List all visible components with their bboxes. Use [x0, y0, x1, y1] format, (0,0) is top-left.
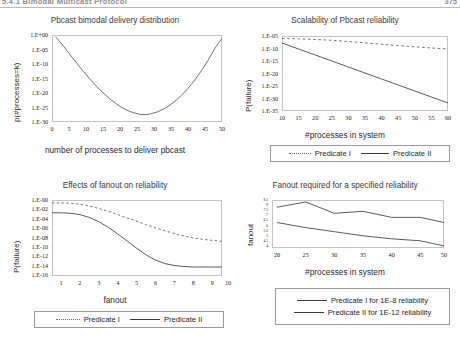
legend-label: Predicate I for 1E-8 reliability	[331, 296, 428, 305]
plot-area	[282, 36, 448, 111]
x-tick: 45	[395, 114, 401, 121]
y-tick: 1.E-25	[16, 105, 48, 111]
y-tick: 6	[254, 224, 268, 228]
x-tick: 60	[445, 114, 451, 121]
plot-area	[272, 200, 444, 248]
x-tick: 7	[173, 279, 176, 286]
y-tick: 7	[254, 213, 268, 217]
legend: Predicate I Predicate II	[34, 311, 224, 328]
x-tick: 2	[78, 279, 81, 286]
x-tick: 55	[428, 114, 434, 121]
y-tick: 6.5	[254, 218, 268, 222]
x-tick: 35	[168, 125, 174, 132]
y-tick: 4.5	[254, 239, 268, 243]
y-tick: 1.E-06	[16, 225, 48, 231]
x-tick: 5	[135, 279, 138, 286]
x-tick: 35	[360, 251, 366, 258]
legend-label: Predicate II	[164, 315, 202, 324]
y-tick: 5.5	[254, 229, 268, 233]
y-tick: 1.E-10	[16, 244, 48, 250]
legend-entry-predicate-ii: Predicate II	[361, 149, 431, 158]
y-tick: 1.E-20	[248, 71, 278, 77]
dotted-line-swatch-icon	[289, 153, 311, 154]
figure-pbcast-bimodal-delivery-distribution: Pbcast bimodal delivery distribution p(#…	[0, 12, 230, 175]
x-tick: 50	[219, 125, 225, 132]
x-tick: 6	[154, 279, 157, 286]
legend-entry-predicate-ii-1e12: Predicate II for 1E-12 reliability	[294, 308, 431, 317]
x-tick: 9	[211, 279, 214, 286]
legend: Predicate I for 1E-8 reliability Predica…	[275, 288, 450, 325]
x-tick: 3	[97, 279, 100, 286]
plot-curve-bimodal	[52, 35, 222, 122]
solid-line-swatch-icon	[297, 300, 327, 301]
figure-effects-of-fanout-on-reliability: Effects of fanout on reliability P(failu…	[0, 178, 230, 347]
y-tick: 5	[254, 234, 268, 238]
figure-title: Effects of fanout on reliability	[0, 181, 230, 190]
legend-label: Predicate I	[315, 149, 351, 158]
solid-line-swatch-icon	[130, 319, 160, 320]
legend: Predicate I Predicate II	[270, 145, 450, 162]
x-tick: 15	[100, 125, 106, 132]
y-tick: 1.E-25	[248, 83, 278, 89]
y-tick: 1.E-10	[248, 46, 278, 52]
y-tick: 1.E-14	[16, 263, 48, 269]
running-head-rule	[0, 7, 460, 8]
legend-entry-predicate-i: Predicate I	[289, 149, 351, 158]
y-tick: 8	[254, 203, 268, 207]
y-tick: 1.E-08	[16, 235, 48, 241]
legend-label: Predicate I	[84, 315, 120, 324]
running-head-left: 5.4.1 Bimodal Multicast Protocol	[2, 0, 127, 6]
legend-entry-predicate-i-1e8: Predicate I for 1E-8 reliability	[297, 296, 428, 305]
figure-title: Scalability of Pbcast reliability	[230, 16, 460, 25]
x-tick: 30	[151, 125, 157, 132]
plot-curves-fanout-required	[272, 200, 444, 248]
x-tick: 5	[67, 125, 70, 132]
x-tick: 8	[192, 279, 195, 286]
x-axis-label: #processes in system	[230, 267, 460, 277]
x-tick: 40	[379, 114, 385, 121]
x-tick: 45	[417, 251, 423, 258]
legend-label: Predicate II for 1E-12 reliability	[328, 308, 431, 317]
figure-title: Pbcast bimodal delivery distribution	[0, 16, 230, 25]
dotted-line-swatch-icon	[56, 319, 80, 320]
x-tick: 0	[50, 125, 53, 132]
x-tick: 30	[345, 114, 351, 121]
figure-title: Fanout required for a specified reliabil…	[230, 181, 460, 190]
plot-area	[52, 35, 222, 122]
y-tick: 1.E-35	[248, 108, 278, 114]
x-tick: 4	[116, 279, 119, 286]
x-axis-label: number of processes to deliver pbcast	[0, 145, 230, 155]
x-tick: 50	[412, 114, 418, 121]
x-tick: 15	[296, 114, 302, 121]
x-tick: 45	[202, 125, 208, 132]
x-tick: 10	[279, 114, 285, 121]
x-axis-label: fanout	[0, 295, 230, 305]
solid-line-swatch-icon	[361, 153, 389, 154]
x-tick: 30	[331, 251, 337, 258]
x-axis-label: #processes in system	[230, 130, 460, 140]
y-tick: 1.E-04	[16, 216, 48, 222]
legend-entry-predicate-i: Predicate I	[56, 315, 120, 324]
y-tick: 1.E+00	[16, 32, 48, 38]
y-tick: 1.E-15	[16, 76, 48, 82]
solid-line-swatch-icon	[294, 312, 324, 313]
x-tick: 20	[117, 125, 123, 132]
x-tick: 25	[329, 114, 335, 121]
plot-curves-fanout-reliability	[52, 200, 222, 276]
y-tick: 1.E-05	[16, 47, 48, 53]
x-tick: 40	[185, 125, 191, 132]
x-tick: 25	[303, 251, 309, 258]
legend-entry-predicate-ii: Predicate II	[130, 315, 202, 324]
x-tick: 40	[389, 251, 395, 258]
figure-fanout-required-for-specified-reliability: Fanout required for a specified reliabil…	[230, 178, 460, 347]
page-number: 375	[444, 0, 457, 6]
y-tick: 1.E-15	[248, 58, 278, 64]
y-tick: 1.E-20	[16, 90, 48, 96]
plot-area	[52, 200, 222, 276]
y-tick: 1.E-02	[16, 206, 48, 212]
x-tick: 25	[134, 125, 140, 132]
legend-label: Predicate II	[393, 149, 431, 158]
x-tick: 20	[274, 251, 280, 258]
y-tick: 1.E-12	[16, 253, 48, 259]
y-tick: 1.E-30	[248, 96, 278, 102]
